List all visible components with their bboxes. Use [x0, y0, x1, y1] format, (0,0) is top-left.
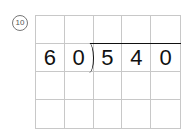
grid-cell[interactable]	[122, 16, 151, 44]
grid-cell[interactable]	[151, 16, 180, 44]
dividend-digit: 5	[94, 44, 123, 72]
grid-cell[interactable]	[122, 100, 151, 128]
divisor-digit: 6	[36, 44, 65, 72]
answer-grid: 6 0 5 4 0	[35, 15, 181, 129]
grid-cell[interactable]	[94, 16, 123, 44]
grid-cell[interactable]	[65, 16, 94, 44]
grid-cell[interactable]	[122, 72, 151, 100]
grid-cell[interactable]	[65, 72, 94, 100]
dividend-digit: 0	[151, 44, 180, 72]
division-bar	[90, 43, 181, 44]
grid-cell[interactable]	[36, 16, 65, 44]
grid-cell[interactable]	[36, 72, 65, 100]
grid-cell[interactable]	[94, 72, 123, 100]
grid-cell[interactable]	[36, 100, 65, 128]
grid-cell[interactable]	[94, 100, 123, 128]
grid-cell[interactable]	[151, 72, 180, 100]
grid-cell[interactable]	[65, 100, 94, 128]
problem-number: 10	[12, 15, 28, 31]
division-bracket	[84, 43, 94, 73]
grid-cell[interactable]	[151, 100, 180, 128]
dividend-digit: 4	[122, 44, 151, 72]
